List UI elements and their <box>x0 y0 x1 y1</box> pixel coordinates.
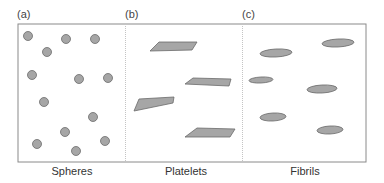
sphere <box>104 74 113 83</box>
fibril <box>260 48 292 58</box>
sphere <box>62 35 71 44</box>
platelet <box>134 97 174 111</box>
diagram-canvas <box>0 0 384 183</box>
sphere <box>40 98 49 107</box>
spheres-caption: Spheres <box>22 165 122 177</box>
platelet <box>185 78 231 86</box>
platelet <box>150 42 197 51</box>
sphere <box>72 147 81 156</box>
platelets-group <box>134 42 235 137</box>
fibrils-group <box>249 38 354 135</box>
platelet <box>185 128 235 137</box>
sphere <box>43 48 52 57</box>
sphere <box>89 113 98 122</box>
sphere <box>61 128 70 137</box>
fibril <box>322 38 354 48</box>
sphere <box>28 71 37 80</box>
fibril <box>260 112 286 121</box>
spheres-group <box>24 32 113 156</box>
fibrils-caption: Fibrils <box>255 165 355 177</box>
sphere <box>91 35 100 44</box>
platelets-caption: Platelets <box>136 165 236 177</box>
fibril <box>317 125 343 134</box>
fibril <box>307 84 337 94</box>
sphere <box>75 75 84 84</box>
sphere <box>33 140 42 149</box>
fibril <box>249 76 273 83</box>
sphere <box>24 32 33 41</box>
sphere <box>101 137 110 146</box>
